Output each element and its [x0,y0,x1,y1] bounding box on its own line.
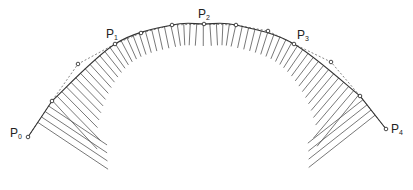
comb-line [171,25,176,47]
comb-line [216,23,217,45]
comb-line [280,43,292,65]
label-base: P [297,28,305,42]
comb-line [317,95,358,146]
comb-line [311,78,339,110]
comb-line [291,53,308,76]
control-point [76,62,80,66]
comb-line [195,24,197,46]
comb-line [189,23,190,45]
comb-line [66,87,99,120]
comb-line [226,24,229,46]
comb-line [302,65,323,91]
point-label-p3: P3 [297,29,309,42]
comb-line [158,28,163,50]
comb-line [299,61,319,86]
control-point [266,29,270,33]
point-label-p0: P0 [10,127,22,140]
spline-diagram: P0P1P2P3P4 [0,0,413,190]
comb-line [308,100,363,143]
comb-line [309,115,375,167]
comb-line [222,23,223,45]
point-label-p2: P2 [198,8,210,21]
spline-curve [28,23,386,137]
label-subscript: 2 [206,14,210,21]
comb-line [121,41,132,62]
control-point [26,135,30,139]
label-subscript: 4 [399,129,403,136]
control-point [113,42,117,46]
comb-line [261,33,268,55]
comb-line [250,29,255,51]
curvature-hatching [38,23,375,169]
label-base: P [106,27,114,41]
comb-line [45,111,107,152]
label-subscript: 1 [114,34,118,41]
comb-line [38,122,108,169]
control-point [292,42,296,46]
comb-line [231,25,236,47]
control-point [202,22,206,26]
control-points [26,22,388,139]
control-point [329,60,333,64]
comb-line [284,46,298,68]
comb-line [139,33,146,55]
comb-line [313,82,343,117]
comb-line [184,23,185,45]
comb-line [210,24,211,46]
comb-line [52,101,97,149]
label-subscript: 0 [18,133,22,140]
comb-line [115,44,128,65]
comb-line [100,56,118,77]
comb-line [164,27,168,49]
comb-line [177,24,180,46]
comb-line [62,92,98,128]
comb-line [90,64,111,87]
point-label-p1: P1 [106,28,118,41]
comb-line [316,86,349,125]
diagram-canvas [0,0,413,190]
label-base: P [391,122,399,136]
label-base: P [10,126,18,140]
control-point [234,23,238,27]
point-label-p4: P4 [391,123,403,136]
comb-line [309,110,371,159]
comb-line [288,50,303,72]
comb-line [238,26,243,48]
control-polygon [28,24,386,137]
comb-line [266,35,274,57]
control-point [384,127,388,131]
comb-line [152,29,157,51]
control-point [139,31,143,35]
comb-line [145,31,151,53]
comb-line [295,57,313,81]
comb-line [95,60,115,82]
control-point [358,94,362,98]
comb-line [110,47,125,68]
comb-line [49,106,107,145]
comb-line [105,51,122,72]
label-subscript: 3 [305,35,309,42]
comb-line [255,31,261,53]
comb-line [76,78,103,106]
control-point [170,23,174,27]
label-base: P [198,7,206,21]
comb-line [244,28,249,50]
comb-line [71,82,101,112]
control-point [50,99,54,103]
